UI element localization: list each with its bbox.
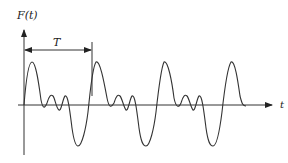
t-axis-label: t (280, 99, 285, 110)
y-axis-label: F(t) (16, 9, 38, 22)
waveform-curve (24, 62, 246, 146)
period-label: T (53, 36, 62, 49)
periodic-waveform-diagram: F(t) t T (0, 0, 288, 163)
